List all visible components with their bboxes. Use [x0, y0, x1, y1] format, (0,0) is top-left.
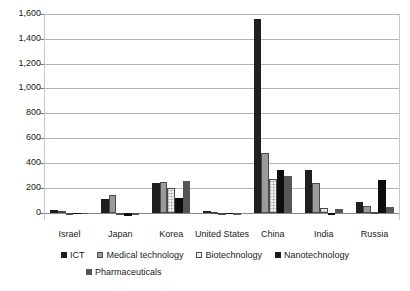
bar — [109, 195, 117, 213]
x-category-label: Korea — [159, 229, 183, 239]
bar — [203, 211, 211, 212]
bar — [132, 213, 140, 215]
legend-label: Medical technology — [106, 250, 183, 260]
bar-group — [44, 14, 95, 220]
y-tick-label: 200 — [1, 183, 41, 192]
bar — [312, 183, 320, 212]
bar — [335, 209, 343, 213]
bar — [116, 213, 124, 215]
x-category-label: Russia — [361, 229, 389, 239]
bar — [261, 153, 269, 213]
x-category-label: United States — [195, 229, 249, 239]
legend-row-primary: ICTMedical technologyBiotechnologyNanote… — [0, 246, 410, 263]
bar — [152, 183, 160, 212]
legend-swatch-icon — [275, 252, 281, 258]
legend-label: Nanotechnology — [284, 250, 349, 260]
bar — [371, 212, 379, 214]
bar — [58, 211, 66, 213]
legend-item[interactable]: Nanotechnology — [275, 250, 349, 260]
y-tick-label: 1,200 — [1, 59, 41, 68]
y-tick-label: 600 — [1, 133, 41, 142]
bar — [175, 198, 183, 212]
legend-item[interactable]: Pharmaceuticals — [86, 267, 162, 277]
bar-chart: 02004006008001,0001,2001,4001,600 Israel… — [0, 0, 410, 291]
bar — [66, 213, 74, 215]
bar — [167, 188, 175, 212]
legend-label: Pharmaceuticals — [95, 267, 162, 277]
bar — [320, 208, 328, 213]
x-category-label: Israel — [58, 229, 80, 239]
bar-group — [146, 14, 197, 220]
bar — [305, 170, 313, 213]
bar — [211, 212, 219, 214]
bar-group — [197, 14, 248, 220]
bar-group — [247, 14, 298, 220]
bars-layer — [44, 14, 400, 220]
bar — [277, 170, 285, 212]
bar-group — [298, 14, 349, 220]
legend-swatch-icon — [97, 252, 103, 258]
y-tick-label: 800 — [1, 108, 41, 117]
bar — [328, 213, 336, 215]
x-category-label: Japan — [108, 229, 133, 239]
bar-group — [95, 14, 146, 220]
chart-legend: ICTMedical technologyBiotechnologyNanote… — [0, 246, 410, 280]
bar — [160, 182, 168, 212]
bar — [218, 213, 226, 215]
bar — [233, 213, 241, 215]
plot-area — [44, 14, 400, 220]
bar — [386, 207, 394, 213]
bar — [183, 181, 191, 213]
legend-item[interactable]: Medical technology — [97, 250, 183, 260]
bar — [124, 213, 132, 217]
x-category-label: China — [261, 229, 285, 239]
bar — [269, 179, 277, 213]
legend-item[interactable]: ICT — [61, 250, 85, 260]
bar — [356, 202, 364, 213]
y-tick-label: 1,000 — [1, 83, 41, 92]
y-tick-label: 1,600 — [1, 9, 41, 18]
bar — [378, 180, 386, 212]
bar — [81, 213, 89, 215]
y-tick-label: 400 — [1, 158, 41, 167]
bar — [284, 176, 292, 213]
legend-label: ICT — [70, 250, 85, 260]
x-category-label: India — [314, 229, 334, 239]
bar — [363, 206, 371, 213]
y-tick-label: 1,400 — [1, 34, 41, 43]
bar — [50, 210, 58, 212]
bar — [73, 213, 81, 214]
bar — [226, 213, 234, 215]
bar — [254, 19, 262, 213]
legend-item[interactable]: Biotechnology — [196, 250, 262, 260]
bar — [101, 199, 109, 213]
bar-group — [349, 14, 400, 220]
legend-label: Biotechnology — [205, 250, 262, 260]
legend-row-secondary: Pharmaceuticals — [0, 263, 410, 280]
y-tick-label: 0 — [1, 208, 41, 217]
legend-swatch-icon — [61, 252, 67, 258]
legend-swatch-icon — [86, 269, 92, 275]
legend-swatch-icon — [196, 252, 202, 258]
